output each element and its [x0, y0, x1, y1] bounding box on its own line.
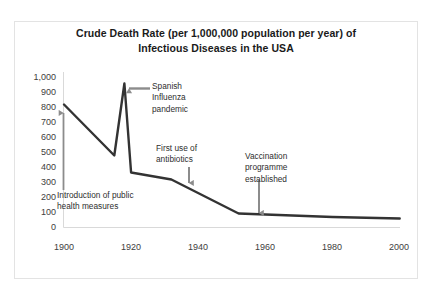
plot-area	[0, 0, 436, 300]
annotation-vaccination-programme-line-3: established	[245, 174, 287, 185]
annotation-vaccination-programme-line-1: Vaccination	[245, 151, 287, 162]
annotation-first-antibiotics-line-2: antibiotics	[156, 154, 197, 165]
annotation-vaccination-programme-line-2: programme	[245, 162, 287, 173]
annotation-spanish-influenza-line-2: Influenza	[152, 92, 188, 103]
annotation-spanish-influenza-line-3: pandemic	[152, 104, 188, 115]
chart-figure: Crude Death Rate (per 1,000,000 populati…	[0, 0, 436, 300]
annotation-public-health-measures: Introduction of public health measures	[57, 190, 134, 213]
annotation-first-antibiotics-line-1: First use of	[156, 143, 197, 154]
annotation-public-health-measures-line-2: health measures	[57, 201, 134, 212]
annotation-vaccination-programme: Vaccination programme established	[245, 151, 287, 185]
annotation-first-antibiotics: First use of antibiotics	[156, 143, 197, 166]
annotation-public-health-measures-line-1: Introduction of public	[57, 190, 134, 201]
annotation-spanish-influenza: Spanish Influenza pandemic	[152, 81, 188, 115]
annotation-spanish-influenza-line-1: Spanish	[152, 81, 188, 92]
